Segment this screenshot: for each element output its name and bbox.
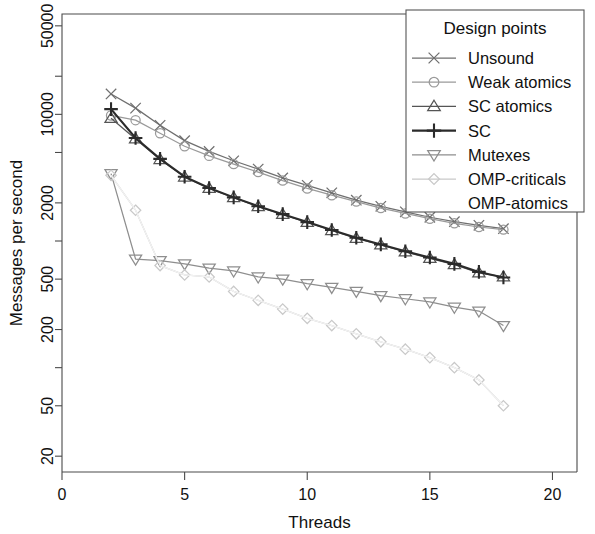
- marker-x-cross-icon: [106, 89, 116, 99]
- marker-triangle-down-icon: [473, 307, 485, 317]
- legend-label: OMP-criticals: [468, 170, 566, 188]
- y-axis-title: Messages per second: [7, 160, 26, 326]
- y-tick-label: 500: [39, 266, 56, 293]
- line-chart: 20502005002000100005000005101520ThreadsM…: [0, 0, 595, 534]
- x-tick-label: 20: [544, 486, 562, 503]
- y-tick-label: 20: [39, 447, 56, 465]
- y-tick-label: 50000: [39, 3, 56, 48]
- marker-triangle-down-icon: [129, 255, 141, 265]
- y-tick-label: 10000: [39, 92, 56, 137]
- x-axis-title: Threads: [288, 513, 350, 532]
- legend-title: Design points: [443, 19, 546, 38]
- legend-label: Weak atomics: [468, 73, 571, 91]
- legend-label: Mutexes: [468, 146, 530, 164]
- x-tick-label: 0: [58, 486, 67, 503]
- legend-label: Unsound: [468, 49, 534, 67]
- x-tick-label: 5: [180, 486, 189, 503]
- legend-label: SC atomics: [468, 97, 552, 115]
- y-tick-label: 200: [39, 316, 56, 343]
- legend-label: SC: [468, 122, 491, 140]
- chart-legend: Design pointsUnsoundWeak atomicsSC atomi…: [406, 10, 584, 212]
- legend-label: OMP-atomics: [468, 194, 568, 212]
- x-tick-label: 10: [298, 486, 316, 503]
- marker-plus-icon: [497, 271, 511, 285]
- marker-x-cross-icon: [130, 103, 140, 113]
- x-tick-label: 15: [421, 486, 439, 503]
- y-tick-label: 50: [39, 397, 56, 415]
- chart-figure: 20502005002000100005000005101520ThreadsM…: [0, 0, 595, 534]
- legend-item-omp-atomics[interactable]: OMP-atomics: [468, 194, 568, 212]
- y-tick-label: 2000: [39, 185, 56, 221]
